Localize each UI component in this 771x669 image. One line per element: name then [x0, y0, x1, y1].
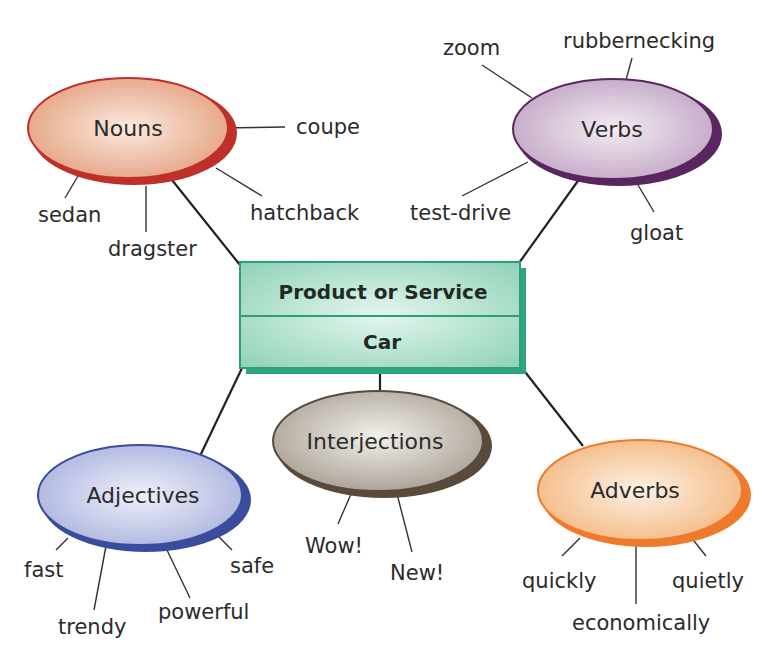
nouns-label: Nouns	[93, 116, 162, 141]
word-trendy: trendy	[58, 615, 126, 639]
leader-test-drive	[462, 162, 528, 196]
leader-gloat	[638, 185, 654, 212]
verbs-label: Verbs	[581, 117, 642, 142]
leader-rubbernecking	[626, 58, 632, 80]
interjections-label: Interjections	[307, 429, 444, 454]
center-title: Product or Service	[279, 280, 488, 304]
word-fast: fast	[24, 558, 63, 582]
word-quickly: quickly	[522, 569, 596, 593]
word-gloat: gloat	[630, 221, 683, 245]
connector-adverbs	[522, 368, 583, 446]
word-wow: Wow!	[305, 534, 363, 558]
leader-fast	[56, 538, 68, 550]
leader-hatchback	[216, 168, 262, 196]
leader-zoom	[482, 65, 532, 98]
word-dragster: dragster	[108, 237, 197, 261]
word-zoom: zoom	[443, 36, 500, 60]
word-coupe: coupe	[296, 115, 360, 139]
word-economically: economically	[572, 611, 710, 635]
word-new: New!	[390, 561, 444, 585]
leader-wow	[338, 494, 351, 524]
leader-sedan	[65, 176, 78, 198]
connector-verbs	[519, 178, 580, 263]
adjectives-node: Adjectives fast trendy powerful safe	[24, 445, 274, 639]
word-web-diagram: Nouns coupe sedan dragster hatchback Ver…	[0, 0, 771, 669]
center-value: Car	[363, 330, 401, 354]
verbs-node: Verbs zoom rubbernecking test-drive gloa…	[410, 29, 722, 245]
word-quietly: quietly	[672, 569, 744, 593]
interjections-node: Interjections Wow! New!	[273, 391, 492, 585]
leader-trendy	[94, 546, 106, 610]
leader-powerful	[166, 548, 190, 598]
connector-adjectives	[200, 368, 242, 456]
leader-new	[397, 494, 412, 552]
leader-quickly	[562, 538, 580, 556]
adverbs-label: Adverbs	[590, 478, 680, 503]
adjectives-label: Adjectives	[86, 483, 199, 508]
word-hatchback: hatchback	[250, 201, 360, 225]
word-rubbernecking: rubbernecking	[563, 29, 715, 53]
word-sedan: sedan	[38, 203, 101, 227]
word-powerful: powerful	[158, 600, 249, 624]
center-box: Product or Service Car	[240, 262, 526, 374]
nouns-node: Nouns coupe sedan dragster hatchback	[28, 78, 360, 261]
word-test-drive: test-drive	[410, 201, 511, 225]
word-safe: safe	[230, 554, 274, 578]
adverbs-node: Adverbs quickly economically quietly	[522, 440, 751, 635]
